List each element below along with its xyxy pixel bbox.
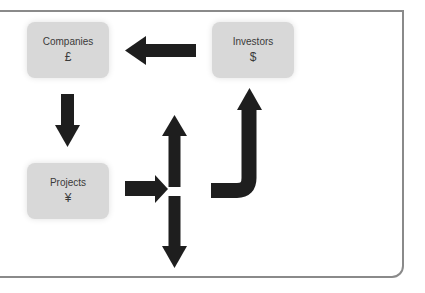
arrow-curved-up-icon	[211, 88, 262, 191]
arrow-down-icon	[162, 196, 187, 268]
arrow-up-icon	[162, 115, 187, 187]
arrow-down-icon	[55, 94, 80, 147]
arrows-layer	[0, 0, 425, 293]
arrow-left-icon	[125, 36, 196, 65]
arrow-right-icon	[125, 175, 168, 203]
